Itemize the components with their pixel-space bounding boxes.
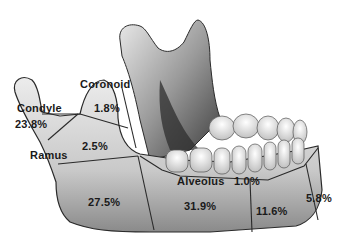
value-alveolus: 1.0%	[234, 175, 260, 187]
label-condyle: Condyle	[17, 102, 62, 114]
value-symphysis: 5.8%	[306, 192, 332, 204]
label-ramus: Ramus	[30, 149, 68, 161]
coronoid-anterior-line	[122, 88, 136, 148]
mandible-diagram: Coronoid 1.8% Condyle 23.8% 2.5% Ramus 2…	[0, 0, 353, 251]
far-ramus	[120, 20, 220, 160]
label-alveolus: Alveolus	[177, 175, 224, 187]
value-body: 31.9%	[184, 200, 216, 212]
value-parasymphysis: 11.6%	[256, 205, 288, 217]
mandible-illustration	[0, 0, 353, 251]
label-coronoid: Coronoid	[80, 78, 130, 90]
value-condyle: 23.8%	[15, 118, 47, 130]
value-coronoid: 1.8%	[94, 102, 120, 114]
value-angle: 27.5%	[88, 196, 120, 208]
value-ramus: 2.5%	[82, 140, 108, 152]
upper-teeth	[209, 114, 307, 144]
